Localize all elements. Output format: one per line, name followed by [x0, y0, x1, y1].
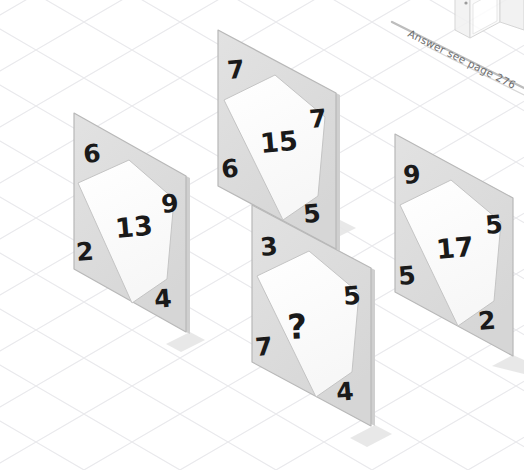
panel-4-corner-top: 9	[402, 160, 422, 190]
panel-3-corner-left: 7	[254, 332, 274, 362]
panel-2-center-value: 15	[259, 125, 299, 159]
panel-4-corner-left: 5	[397, 261, 417, 291]
panel-1-corner-left: 2	[75, 237, 95, 267]
panel-4-center-value: 17	[435, 231, 475, 265]
puzzle-canvas: Answer see page 276 6 9 2 4 13 7 7 6 5 1…	[0, 0, 524, 470]
panel-3-edge	[371, 268, 375, 426]
panel-2-edge	[336, 93, 340, 251]
panel-3-corner-right: 5	[342, 281, 362, 311]
panel-4-corner-right: 5	[484, 210, 504, 240]
panel-1-corner-right: 9	[160, 189, 180, 219]
panel-3-corner-bottom: 4	[335, 377, 355, 407]
panel-3-center-value: ?	[286, 306, 308, 347]
panel-2-corner-top: 7	[226, 55, 246, 85]
panel-2-corner-bottom: 5	[302, 199, 322, 229]
panel-3-corner-top: 3	[259, 232, 279, 262]
panel-1-corner-bottom: 4	[153, 284, 173, 314]
panel-2-corner-right: 7	[308, 104, 328, 134]
panel-4-corner-bottom: 2	[477, 306, 497, 336]
panel-1-center-value: 13	[114, 210, 154, 244]
panel-2-corner-left: 6	[220, 154, 240, 184]
panel-1-corner-top: 6	[82, 139, 102, 169]
